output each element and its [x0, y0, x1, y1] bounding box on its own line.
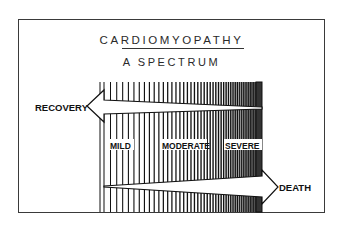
spectrum-diagram: MILD MODERATE SEVERE RECOVERY DEATH	[0, 0, 343, 241]
recovery-label: RECOVERY	[35, 102, 89, 113]
severity-label-moderate: MODERATE	[162, 141, 210, 151]
severity-label-mild: MILD	[110, 141, 131, 151]
severity-label-severe: SEVERE	[225, 141, 260, 151]
death-label: DEATH	[279, 182, 311, 193]
